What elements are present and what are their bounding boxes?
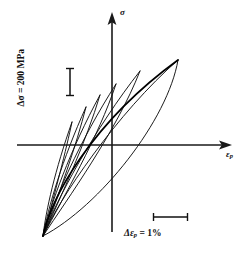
strain-axis-label: εp — [226, 150, 233, 160]
loop-5-reload — [43, 71, 140, 236]
hysteresis-plot — [0, 0, 246, 256]
stress-axis-label: σ — [120, 8, 125, 17]
stress-scale-annotation: Δσ = 200 MPa — [17, 35, 27, 121]
strain-scale-annotation: Δεp = 1% — [124, 229, 162, 239]
hysteresis-figure: σ εp Δσ = 200 MPa Δεp = 1% — [0, 0, 246, 256]
strain-scale-symbol: Δε — [124, 228, 134, 238]
strain-scalebar — [153, 213, 188, 221]
stress-scalebar — [66, 68, 74, 96]
hysteresis-loops-group — [43, 60, 178, 236]
strain-axis-label-subscript: p — [230, 152, 233, 159]
loop-5-unload — [43, 71, 140, 236]
strain-scale-value: = 1% — [137, 228, 161, 238]
